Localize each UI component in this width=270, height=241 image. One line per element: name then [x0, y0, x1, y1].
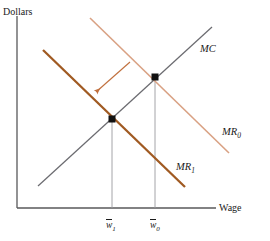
curve-label-mr1: MR1: [176, 162, 195, 175]
curve-label-mc: MC: [200, 44, 216, 55]
shift-arrow-line: [96, 62, 130, 92]
economics-diagram-figure: Dollars Wage MC MR0 MR1 w1 w0: [0, 0, 270, 241]
x-tick-label-w1: w1: [106, 221, 116, 233]
curve-label-mr0: MR0: [222, 127, 241, 140]
y-axis-label: Dollars: [3, 7, 32, 17]
x-axis-label: Wage: [219, 203, 242, 213]
equilibrium-point-0: [152, 74, 159, 81]
curve-mr0: [90, 18, 229, 153]
curve-label-mr1-sub: 1: [191, 166, 195, 175]
x-tick-label-w0-sub: 0: [156, 225, 160, 233]
shift-arrow: [96, 62, 130, 92]
curve-label-mr0-sub: 0: [237, 131, 241, 140]
x-tick-label-w0: w0: [150, 221, 160, 233]
curve-label-mr1-base: MR: [176, 161, 191, 172]
curve-label-mr0-base: MR: [222, 126, 237, 137]
x-tick-label-w1-sub: 1: [112, 225, 116, 233]
x-tick-label-w1-base: w: [106, 221, 112, 231]
x-tick-label-w0-base: w: [150, 221, 156, 231]
droplines-group: [112, 77, 155, 208]
equilibrium-point-1: [109, 116, 116, 123]
